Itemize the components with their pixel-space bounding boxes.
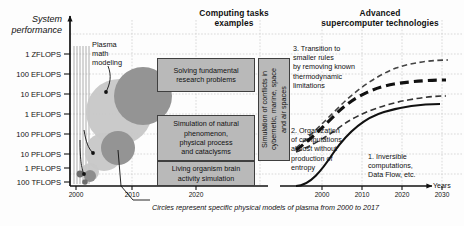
tech2-line3: almost without bbox=[291, 144, 337, 153]
taskbox-conflicts-line2: cybernetic, marine, space bbox=[269, 69, 279, 151]
x-axis-unit-label: Years bbox=[433, 182, 451, 189]
figure-root: Computing tasks examples Advanced superc… bbox=[0, 0, 464, 226]
taskbox-natural-line4: and cataclysms bbox=[173, 147, 239, 156]
x-tick-right-2020: 2020 bbox=[387, 191, 417, 198]
y-tick-10pflops: 10 PFLOPS bbox=[0, 150, 61, 159]
tech2-line1: 2. Organization bbox=[291, 126, 340, 135]
y-tick-1eflops: 1 EFLOPS bbox=[0, 110, 61, 119]
heading-advanced-supercomputer: Advanced supercomputer technologies bbox=[300, 8, 460, 28]
taskbox-solving-line1: Solving fundamental bbox=[173, 66, 238, 75]
y-tick-1pflops: 1 PFLOPS bbox=[0, 164, 61, 173]
tech3-line2: smaller rules bbox=[293, 53, 334, 62]
y-tick-100tflops: 100 TFLOPS bbox=[0, 178, 61, 187]
taskbox-brain-line2: activity simulation bbox=[172, 174, 240, 183]
tech1-line3: Data Flow, etc. bbox=[368, 170, 416, 179]
taskbox-brain-line1: Living organism brain bbox=[172, 164, 240, 173]
tech3-line5: limitations bbox=[293, 81, 325, 90]
annotation-tech-3-transition: 3. Transition to smaller rules by removi… bbox=[293, 44, 379, 90]
x-tick-left-2000: 2000 bbox=[61, 191, 91, 198]
x-tick-left-2020: 2020 bbox=[181, 191, 211, 198]
taskbox-conflicts-line3: and air spaces bbox=[279, 69, 289, 151]
taskbox-solving-fundamental-research: Solving fundamental research problems bbox=[157, 58, 255, 92]
tech3-line1: 3. Transition to bbox=[293, 44, 340, 53]
y-tick-100eflops: 100 EFLOPS bbox=[0, 70, 61, 79]
y-tick-100pflops: 100 PFLOPS bbox=[0, 130, 61, 139]
x-tick-right-2010: 2010 bbox=[347, 191, 377, 198]
heading-advanced-line2: supercomputer technologies bbox=[321, 18, 439, 28]
y-axis-title: System performance bbox=[0, 14, 62, 36]
x-tick-right-2000: 2000 bbox=[307, 191, 337, 198]
tech2-line5: entropy bbox=[291, 163, 315, 172]
plasma-math-modeling-label: Plasma math modeling bbox=[92, 40, 138, 68]
y-axis-title-line1: System bbox=[32, 14, 62, 24]
tech2-line4: production of bbox=[291, 154, 333, 163]
tech3-line4: thermodynamic bbox=[293, 72, 342, 81]
y-tick-10eflops: 10 EFLOPS bbox=[0, 90, 61, 99]
y-tick-1zflops: 1 ZFLOPS bbox=[0, 50, 61, 59]
heading-computing-tasks-line1: Computing tasks bbox=[199, 8, 268, 18]
plasma-label-line1: Plasma bbox=[92, 40, 117, 49]
annotation-tech-2-organization: 2. Organization of computations almost w… bbox=[291, 126, 359, 172]
x-axis-left bbox=[70, 186, 268, 190]
x-axis-right bbox=[280, 186, 442, 190]
y-axis bbox=[64, 16, 70, 186]
tech1-line2: computations, bbox=[368, 161, 413, 170]
tech2-line2: of computations bbox=[291, 135, 342, 144]
heading-computing-tasks-line2: examples bbox=[215, 18, 254, 28]
taskbox-natural-line1: Simulation of natural bbox=[173, 119, 239, 128]
x-tick-left-2010: 2010 bbox=[117, 191, 147, 198]
plasma-label-line2: math bbox=[92, 49, 108, 58]
y-axis-title-line2: performance bbox=[11, 25, 62, 35]
annotation-tech-1-inversible: 1. Inversible computations, Data Flow, e… bbox=[368, 152, 444, 180]
taskbox-natural-line3: physical process bbox=[173, 138, 239, 147]
taskbox-natural-line2: phenomenon, bbox=[173, 129, 239, 138]
x-tick-right-2030: 2030 bbox=[427, 191, 457, 198]
tech3-line3: by removing known bbox=[293, 62, 355, 71]
heading-computing-tasks: Computing tasks examples bbox=[186, 8, 282, 28]
taskbox-living-organism-brain: Living organism brain activity simulatio… bbox=[157, 161, 255, 186]
tech1-line1: 1. Inversible bbox=[368, 152, 407, 161]
taskbox-simulation-conflicts: Simulation of conflicts in cybernetic, m… bbox=[258, 58, 290, 161]
bubble-dot-b bbox=[82, 179, 88, 185]
plasma-label-line3: modeling bbox=[92, 58, 122, 67]
taskbox-simulation-natural-phenomenon: Simulation of natural phenomenon, physic… bbox=[157, 115, 255, 161]
taskbox-solving-line2: research problems bbox=[173, 75, 238, 84]
figure-caption: Circles represent specific physical mode… bbox=[152, 203, 379, 212]
bubble-dark-mid bbox=[101, 131, 135, 165]
taskbox-conflicts-line1: Simulation of conflicts in bbox=[260, 69, 270, 151]
bubble-dot-a bbox=[77, 171, 84, 178]
heading-advanced-line1: Advanced bbox=[360, 8, 401, 18]
